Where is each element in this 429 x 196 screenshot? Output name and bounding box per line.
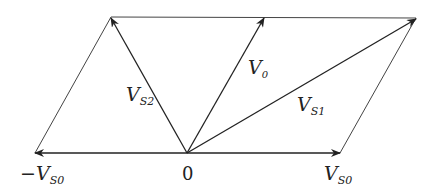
vector-vs1 bbox=[187, 19, 416, 153]
label-neg-vs0: −VS0 bbox=[20, 162, 64, 187]
label-v0: V0 bbox=[248, 56, 269, 80]
origin-label: 0 bbox=[182, 163, 193, 184]
label-vs0: VS0 bbox=[324, 162, 352, 187]
vector-v0 bbox=[187, 18, 264, 153]
vector-vs2 bbox=[111, 18, 187, 153]
left-edge bbox=[35, 17, 111, 153]
label-vs1: VS1 bbox=[297, 93, 325, 118]
vector-diagram: VS2 V0 VS1 VS0 −VS0 0 bbox=[0, 0, 429, 196]
right-edge bbox=[340, 18, 416, 153]
